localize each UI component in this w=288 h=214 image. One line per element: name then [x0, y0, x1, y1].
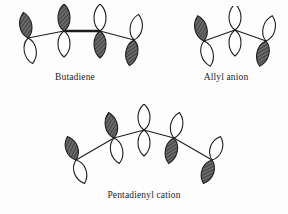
diagram-pentadienyl-cation: [58, 104, 230, 188]
orbital-3: [138, 104, 150, 156]
orbital-1: [62, 134, 90, 185]
diagram-canvas: Butadiene: [0, 0, 288, 214]
orbital-5: [198, 134, 226, 185]
butadiene-bonds: [28, 31, 134, 40]
orbital-4: [124, 13, 145, 66]
orbital-1: [192, 14, 216, 67]
orbital-1: [18, 11, 39, 64]
orbital-4: [163, 111, 186, 164]
orbital-3: [254, 14, 278, 67]
orbital-2: [103, 111, 126, 164]
caption-allyl-anion: Allyl anion: [166, 72, 286, 82]
diagram-allyl-anion: [186, 6, 282, 72]
allyl-svg: [186, 6, 282, 72]
caption-pentadienyl-cation: Pentadienyl cation: [58, 190, 230, 200]
diagram-butadiene: [6, 4, 146, 72]
caption-butadiene: Butadiene: [0, 72, 150, 82]
butadiene-svg: [6, 4, 146, 72]
pentadienyl-svg: [58, 104, 230, 188]
